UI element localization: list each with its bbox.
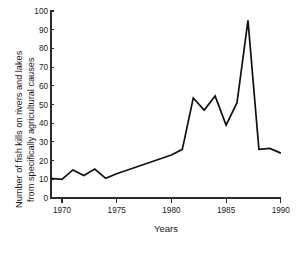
data-series-line bbox=[51, 20, 281, 179]
y-axis-title-line-1: Number of fish kills on rivers and lakes bbox=[14, 50, 24, 208]
y-tick-label-90: 90 bbox=[39, 26, 49, 35]
y-tick-label-0: 0 bbox=[43, 194, 48, 203]
y-axis-tick-labels: 100 90 80 70 60 50 40 30 20 10 0 bbox=[34, 7, 48, 203]
y-tick-label-10: 10 bbox=[39, 175, 49, 184]
y-tick-label-60: 60 bbox=[39, 82, 49, 91]
chart-canvas: Number of fish kills on rivers and lakes… bbox=[0, 0, 297, 257]
x-tick-label-1970: 1970 bbox=[53, 206, 72, 215]
x-axis-tick-labels: 1970 1975 1980 1985 1990 bbox=[53, 206, 290, 215]
y-axis-title-line-2: from specifically agricultural causes bbox=[26, 57, 36, 202]
y-axis-title-group: Number of fish kills on rivers and lakes… bbox=[14, 50, 36, 208]
y-tick-label-40: 40 bbox=[39, 119, 49, 128]
y-tick-label-50: 50 bbox=[39, 101, 49, 110]
x-tick-label-1990: 1990 bbox=[272, 206, 291, 215]
y-tick-label-20: 20 bbox=[39, 157, 49, 166]
x-axis-tick-marks bbox=[62, 198, 281, 203]
y-tick-label-100: 100 bbox=[34, 7, 48, 16]
y-tick-label-30: 30 bbox=[39, 138, 49, 147]
x-tick-label-1975: 1975 bbox=[108, 206, 127, 215]
fish-kills-line-chart: Number of fish kills on rivers and lakes… bbox=[0, 0, 297, 257]
y-tick-label-70: 70 bbox=[39, 63, 49, 72]
y-tick-label-80: 80 bbox=[39, 44, 49, 53]
x-tick-label-1985: 1985 bbox=[217, 206, 236, 215]
x-axis-title: Years bbox=[154, 223, 178, 234]
x-tick-label-1980: 1980 bbox=[162, 206, 181, 215]
